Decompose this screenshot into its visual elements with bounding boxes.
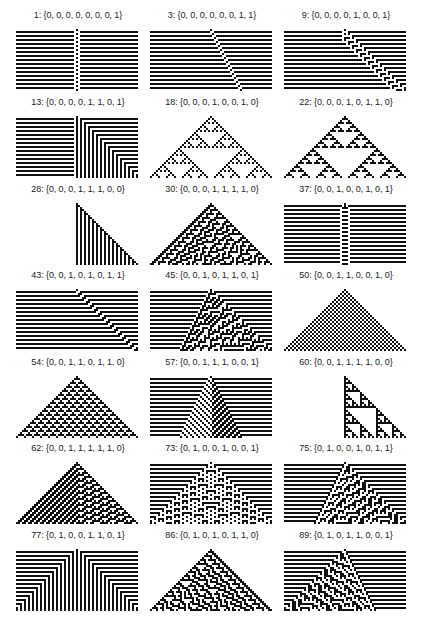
panel-label: 1: {0, 0, 0, 0, 0, 0, 0, 1} [14,10,142,20]
ca-evolution-image [150,462,272,524]
panel-label: 43: {0, 0, 1, 0, 1, 0, 1, 1} [14,270,142,280]
ca-evolution-image [150,29,272,91]
panel-label: 22: {0, 0, 0, 1, 0, 1, 1, 0} [282,97,410,107]
ca-evolution-image [16,29,138,91]
ca-evolution-image [16,549,138,611]
panel-label: 30: {0, 0, 0, 1, 1, 1, 1, 0} [148,184,276,194]
ca-evolution-image [16,376,138,438]
ca-evolution-image [284,549,406,611]
panel-label: 45: {0, 0, 1, 0, 1, 1, 0, 1} [148,270,276,280]
panel-label: 9: {0, 0, 0, 0, 1, 0, 0, 1} [282,10,410,20]
panel-label: 77: {0, 1, 0, 0, 1, 1, 0, 1} [14,530,142,540]
ca-evolution-image [150,376,272,438]
panel-label: 3: {0, 0, 0, 0, 0, 0, 1, 1} [148,10,276,20]
ca-evolution-image [150,549,272,611]
ca-evolution-image [16,289,138,351]
ca-evolution-image [284,116,406,178]
panel-label: 89: {0, 1, 0, 1, 1, 0, 0, 1} [282,530,410,540]
panel-label: 57: {0, 0, 1, 1, 1, 0, 0, 1} [148,357,276,367]
panel-label: 75: {0, 1, 0, 0, 1, 0, 1, 1} [282,443,410,453]
ca-evolution-image [16,203,138,265]
panel-label: 18: {0, 0, 0, 1, 0, 0, 1, 0} [148,97,276,107]
ca-evolution-image [150,203,272,265]
panel-label: 54: {0, 0, 1, 1, 0, 1, 1, 0} [14,357,142,367]
ca-evolution-image [150,116,272,178]
ca-evolution-image [284,289,406,351]
cellular-automata-grid: 1: {0, 0, 0, 0, 0, 0, 0, 1}3: {0, 0, 0, … [0,0,422,630]
ca-evolution-image [16,116,138,178]
ca-evolution-image [16,462,138,524]
panel-label: 28: {0, 0, 0, 1, 1, 1, 0, 0} [14,184,142,194]
ca-evolution-image [284,203,406,265]
panel-label: 37: {0, 0, 1, 0, 0, 1, 0, 1} [282,184,410,194]
ca-evolution-image [284,29,406,91]
panel-label: 13: {0, 0, 0, 0, 1, 1, 0, 1} [14,97,142,107]
ca-evolution-image [150,289,272,351]
panel-label: 50: {0, 0, 1, 1, 0, 0, 1, 0} [282,270,410,280]
panel-label: 73: {0, 1, 0, 0, 1, 0, 0, 1} [148,443,276,453]
panel-label: 62: {0, 0, 1, 1, 1, 1, 1, 0} [14,443,142,453]
panel-label: 60: {0, 0, 1, 1, 1, 1, 0, 0} [282,357,410,367]
ca-evolution-image [284,462,406,524]
ca-evolution-image [284,376,406,438]
panel-label: 86: {0, 1, 0, 1, 0, 1, 1, 0} [148,530,276,540]
